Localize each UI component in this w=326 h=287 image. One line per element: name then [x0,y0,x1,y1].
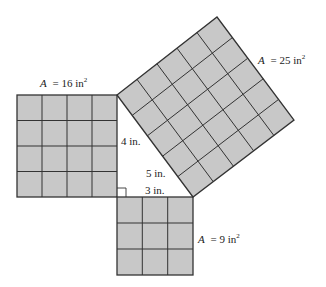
side-label-4: 4 in. [121,135,141,147]
pythagorean-diagram: A = 16 in2 A = 25 in2 A = 9 in2 4 in. 5 … [0,0,326,287]
side-label-5: 5 in. [146,167,166,179]
square-25 [117,17,294,197]
side-label-3: 3 in. [145,184,165,196]
right-angle-marker [117,188,126,197]
area-label-9: A = 9 in2 [197,232,240,245]
square-9 [117,197,193,275]
area-label-16: A = 16 in2 [39,76,88,89]
area-label-25: A = 25 in2 [257,53,306,66]
square-16 [17,95,117,197]
